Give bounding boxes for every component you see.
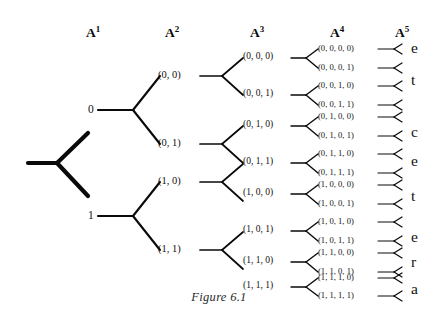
leaf-letter: t (411, 72, 415, 88)
node-label-level3-100: (1, 0, 0) (243, 188, 273, 198)
edge-leaf-upper (394, 180, 402, 185)
edge-10-to-100 (222, 164, 243, 182)
node-label-level3-000: (0, 0, 0) (243, 52, 273, 62)
edge-10-to-101 (222, 182, 243, 201)
edge-leaf-lower (394, 253, 402, 258)
edge-011-to-0110 (306, 154, 318, 163)
node-label-level2-01: (0, 1) (158, 138, 181, 149)
node-label-level1-0: 0 (88, 104, 94, 116)
edge-leaf-upper (394, 217, 402, 222)
edge-100-to-1001 (306, 194, 318, 204)
edge-leaf-lower (394, 173, 402, 178)
leaf-letter: e (411, 153, 418, 169)
edge-010-to-0101 (306, 126, 318, 136)
edge-1-to-10 (133, 182, 160, 216)
node-label-level3-110: (1, 1, 0) (243, 256, 273, 266)
leaf-letter: e (411, 40, 418, 56)
edge-leaf-upper (394, 63, 402, 68)
node-label-level4: (1, 0, 0, 1) (318, 199, 354, 208)
edge-101-to-1011 (306, 231, 318, 241)
node-label-level3-001: (0, 0, 1) (243, 89, 273, 99)
edge-001-to-0011 (306, 95, 318, 105)
edge-leaf-lower (394, 86, 402, 91)
leaf-letter: r (411, 254, 416, 270)
edge-11-to-110 (222, 232, 243, 250)
column-header-a2: A2 (165, 26, 179, 40)
node-label-level4: (0, 1, 0, 0) (318, 112, 354, 121)
edge-leaf-upper (394, 100, 402, 105)
edge-11-to-111 (222, 250, 243, 269)
node-label-level2-10: (1, 0) (158, 176, 181, 187)
edge-leaf-upper (394, 131, 402, 136)
edge-root-to-1 (57, 163, 88, 196)
edge-000-to-0000 (306, 49, 318, 58)
edge-010-to-0100 (306, 117, 318, 126)
edge-0-to-01 (133, 110, 160, 144)
edge-110-to-1101 (306, 262, 318, 272)
edge-leaf-upper (394, 168, 402, 173)
node-label-level4: (1, 1, 1, 0) (318, 273, 354, 282)
column-header-a3: A3 (250, 26, 264, 40)
edge-leaf-lower (394, 49, 402, 54)
edge-leaf-upper (394, 248, 402, 253)
edge-00-to-000 (222, 58, 243, 76)
edge-01-to-010 (222, 126, 243, 144)
edge-leaf-lower (394, 117, 402, 122)
edge-101-to-1010 (306, 222, 318, 231)
edge-leaf-lower (394, 204, 402, 209)
column-header-a4: A4 (330, 26, 344, 40)
node-label-level4: (0, 0, 0, 1) (318, 63, 354, 72)
column-header-a5: A5 (395, 26, 409, 40)
edge-110-to-1100 (306, 253, 318, 262)
tree-edges-svg (0, 0, 438, 318)
figure-caption: Figure 6.1 (0, 290, 438, 305)
node-label-level4: (0, 0, 1, 1) (318, 100, 354, 109)
node-label-level2-00: (0, 0) (158, 70, 181, 81)
leaf-letter: c (411, 124, 418, 140)
edge-00-to-001 (222, 76, 243, 95)
edge-leaf-upper (394, 236, 402, 241)
node-label-level4: (1, 1, 0, 0) (318, 248, 354, 257)
edge-leaf-upper (394, 112, 402, 117)
node-label-level4: (0, 1, 0, 1) (318, 131, 354, 140)
edge-111-to-1110 (306, 278, 318, 287)
node-label-level3-101: (1, 0, 1) (243, 225, 273, 235)
node-label-level4: (0, 0, 0, 0) (318, 44, 354, 53)
edge-0-to-00 (133, 76, 160, 110)
edge-leaf-upper (394, 267, 402, 272)
edge-leaf-lower (394, 68, 402, 73)
edge-leaf-upper (394, 44, 402, 49)
edge-leaf-lower (394, 241, 402, 246)
edge-leaf-lower (394, 154, 402, 159)
edge-000-to-0001 (306, 58, 318, 68)
node-label-level2-11: (1, 1) (158, 244, 181, 255)
node-label-level4: (1, 0, 0, 0) (318, 180, 354, 189)
edge-leaf-lower (394, 185, 402, 190)
node-label-level3-010: (0, 1, 0) (243, 120, 273, 130)
figure-binary-tree: A1 A2 A3 A4 A5 0 1 (0, 0) (0, 1) (1, 0) … (0, 0, 438, 318)
edge-leaf-lower (394, 136, 402, 141)
edge-leaf-lower (394, 222, 402, 227)
leaf-letter: t (411, 188, 415, 204)
edge-100-to-1000 (306, 185, 318, 194)
edge-leaf-lower (394, 278, 402, 283)
edge-root-to-0 (57, 133, 88, 163)
edge-leaf-upper (394, 81, 402, 86)
edge-leaf-lower (394, 105, 402, 110)
column-header-a1: A1 (86, 26, 100, 40)
edge-1-to-11 (133, 216, 160, 250)
edge-01-to-011 (222, 144, 243, 163)
node-label-level4: (0, 1, 1, 1) (318, 168, 354, 177)
edge-leaf-upper (394, 199, 402, 204)
node-label-level4: (1, 0, 1, 1) (318, 236, 354, 245)
edge-001-to-0010 (306, 86, 318, 95)
node-label-level4: (0, 1, 1, 0) (318, 149, 354, 158)
node-label-level4: (0, 0, 1, 0) (318, 81, 354, 90)
node-label-level3-011: (0, 1, 1) (243, 157, 273, 167)
edge-011-to-0111 (306, 163, 318, 173)
edge-leaf-upper (394, 273, 402, 278)
edge-leaf-lower (394, 272, 402, 277)
edge-leaf-upper (394, 149, 402, 154)
node-label-level4: (1, 0, 1, 0) (318, 217, 354, 226)
leaf-letter: e (411, 229, 418, 245)
